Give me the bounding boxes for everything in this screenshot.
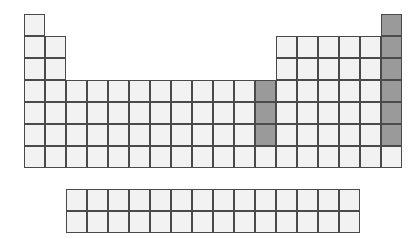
f-block-cell-s2-c1: [66, 211, 87, 233]
f-block-cell-s1-c10: [255, 189, 276, 211]
f-block-cell-s1-c5: [150, 189, 171, 211]
f-block-cell-s1-c11: [276, 189, 297, 211]
f-block-grid: [0, 0, 418, 239]
f-block-cell-s2-c5: [150, 211, 171, 233]
f-block-cell-s2-c7: [192, 211, 213, 233]
f-block-cell-s1-c2: [87, 189, 108, 211]
f-block-cell-s1-c9: [234, 189, 255, 211]
f-block-cell-s2-c13: [318, 211, 339, 233]
f-block-cell-s1-c3: [108, 189, 129, 211]
f-block-cell-s1-c1: [66, 189, 87, 211]
f-block-cell-s1-c7: [192, 189, 213, 211]
periodic-table-figure: [0, 0, 418, 239]
f-block-cell-s2-c4: [129, 211, 150, 233]
f-block-cell-s1-c12: [297, 189, 318, 211]
f-block-cell-s2-c3: [108, 211, 129, 233]
f-block-cell-s1-c8: [213, 189, 234, 211]
f-block-cell-s2-c9: [234, 211, 255, 233]
f-block-cell-s2-c8: [213, 211, 234, 233]
f-block-cell-s2-c10: [255, 211, 276, 233]
f-block-cell-s1-c4: [129, 189, 150, 211]
f-block-cell-s1-c14: [339, 189, 360, 211]
f-block-cell-s1-c6: [171, 189, 192, 211]
f-block-cell-s2-c12: [297, 211, 318, 233]
f-block-cell-s2-c11: [276, 211, 297, 233]
f-block-cell-s2-c2: [87, 211, 108, 233]
f-block-cell-s2-c6: [171, 211, 192, 233]
f-block-cell-s2-c14: [339, 211, 360, 233]
f-block-cell-s1-c13: [318, 189, 339, 211]
